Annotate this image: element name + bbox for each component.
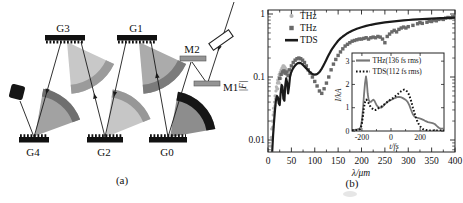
grating-g3	[45, 35, 85, 41]
inset-axes-and-curves: -20002000123	[346, 53, 444, 142]
grating-g1	[117, 35, 157, 41]
legend-dot-icon	[289, 14, 293, 18]
data-point-square	[320, 92, 323, 95]
inset-y-tick-label: 3	[346, 57, 350, 66]
y-tick-label: 0.01	[248, 135, 265, 145]
inset-y-tick-label: 1	[346, 103, 350, 112]
label-g1: G1	[129, 22, 142, 34]
x-tick-label: 250	[378, 156, 393, 166]
main-legend: THz THz TDS	[285, 11, 318, 45]
inset-x-tick-label: -200	[355, 133, 369, 142]
x-tick-label: 100	[308, 156, 323, 166]
x-tick-label: 0	[266, 156, 271, 166]
label-g0: G0	[160, 146, 174, 158]
x-tick-label: 350	[425, 156, 440, 166]
legend-square-icon	[289, 26, 293, 30]
data-point-square	[407, 25, 410, 28]
panel-b: 05010015020025030035040010.10.01 |F| λ/μ…	[238, 9, 462, 197]
data-point-square	[334, 58, 337, 61]
grating-g0	[149, 137, 187, 143]
inset: -20002000123 THz(136 fs rms) TDS(112 fs …	[334, 53, 444, 151]
data-point-square	[383, 41, 386, 44]
label-m1: M1	[223, 81, 238, 93]
data-point-square	[322, 87, 325, 90]
data-point-square	[332, 62, 335, 65]
data-point-square	[290, 64, 293, 67]
caption-b: (b)	[346, 177, 359, 190]
figure-canvas: G3 G1 G4 G2 G0 M2 M1 (a) 050100150200250…	[0, 0, 463, 203]
y-tick-label: 0.1	[253, 72, 265, 82]
beam-dump-icon	[9, 84, 26, 101]
inset-y-tick-label: 0	[346, 127, 350, 136]
data-point-square	[315, 84, 318, 87]
mirror-m1	[194, 81, 220, 86]
data-point-square	[411, 24, 414, 27]
inset-x-axis-title: t/fs	[389, 142, 399, 151]
data-point-square	[325, 81, 328, 84]
panel-a: G3 G1 G4 G2 G0 M2 M1 (a)	[9, 2, 239, 187]
data-point-square	[339, 50, 342, 53]
y-axis-title: |F|	[238, 80, 248, 91]
x-tick-label: 150	[331, 156, 346, 166]
figure: G3 G1 G4 G2 G0 M2 M1 (a) 050100150200250…	[0, 0, 463, 203]
grating-g2	[87, 137, 123, 143]
inset-x-tick-label: 0	[389, 133, 393, 142]
data-point-square	[278, 77, 281, 80]
data-point-square	[381, 37, 384, 40]
label-g2: G2	[97, 146, 110, 158]
y-tick-label: 1	[260, 9, 265, 19]
print-artifact	[343, 191, 357, 197]
inset-y-axis-title: I/kA	[334, 88, 343, 102]
mirror-m2	[180, 56, 206, 61]
data-point-square	[303, 61, 306, 64]
legend-label-thz2: THz	[300, 23, 317, 33]
data-point-square	[421, 22, 424, 25]
x-tick-label: 200	[354, 156, 369, 166]
inset-y-tick-label: 2	[346, 80, 350, 89]
caption-a: (a)	[116, 174, 129, 187]
legend-label-thz1: THz	[300, 11, 317, 21]
data-point-square	[327, 75, 330, 78]
beam-m1-m2	[192, 62, 206, 82]
data-point-square	[311, 75, 314, 78]
label-m2: M2	[184, 43, 199, 55]
x-tick-label: 300	[401, 156, 416, 166]
legend-label-tds: TDS	[300, 35, 318, 45]
inset-x-tick-label: 200	[414, 133, 426, 142]
label-g3: G3	[56, 22, 70, 34]
data-point-square	[329, 68, 332, 71]
label-g4: G4	[26, 146, 40, 158]
inset-legend-label-tds: TDS(112 fs rms)	[373, 67, 423, 76]
beam-g4-dump	[20, 101, 34, 137]
data-point-square	[313, 80, 316, 83]
x-tick-label: 50	[287, 156, 297, 166]
data-point-dot	[276, 87, 279, 90]
x-tick-label: 400	[448, 156, 463, 166]
data-point-square	[336, 54, 339, 57]
grating-g4	[19, 137, 49, 143]
inset-legend-label-thz: THz(136 fs rms)	[373, 56, 422, 65]
data-point-dot	[278, 82, 281, 85]
